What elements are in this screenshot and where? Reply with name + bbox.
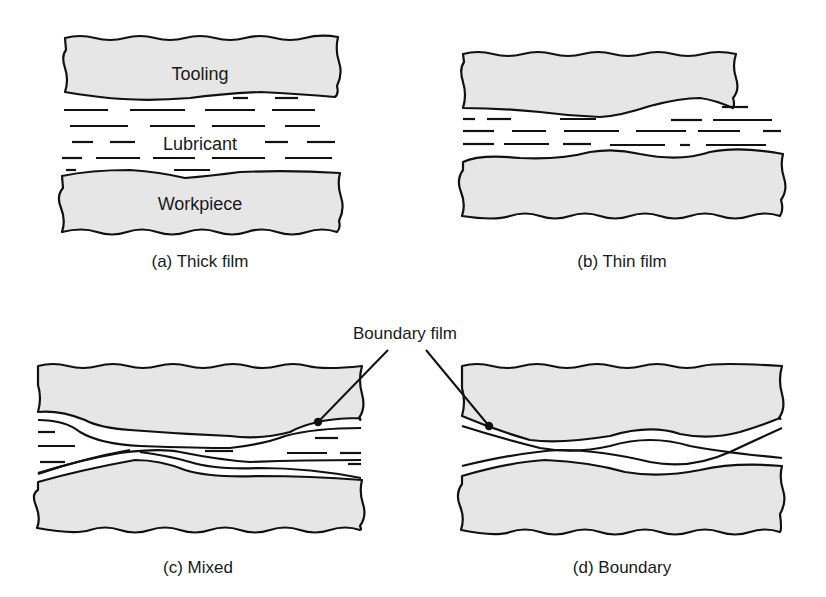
- lower-block: [459, 149, 786, 218]
- lower-block-boundary: [458, 460, 785, 535]
- upper-block-boundary: [462, 364, 783, 441]
- lubrication-diagram: .blk{fill:#e6e6e6;stroke:#111;stroke-wid…: [0, 0, 826, 597]
- upper-block: [461, 52, 737, 117]
- panel-boundary: [426, 350, 784, 535]
- boundary-film-callout: Boundary film: [353, 324, 457, 344]
- lubricant-label: Lubricant: [163, 134, 237, 154]
- workpiece-label: Workpiece: [158, 194, 243, 214]
- caption-thin-film: (b) Thin film: [577, 252, 666, 272]
- panel-thin-film: [459, 52, 786, 219]
- panel-mixed: [34, 350, 388, 533]
- caption-thick-film: (a) Thick film: [152, 252, 249, 272]
- panel-thick-film: Tooling Lubricant Workpiece: [59, 36, 343, 235]
- caption-boundary: (d) Boundary: [573, 558, 671, 578]
- tooling-label: Tooling: [171, 64, 228, 84]
- caption-mixed: (c) Mixed: [163, 558, 233, 578]
- upper-block-mixed: [38, 364, 363, 437]
